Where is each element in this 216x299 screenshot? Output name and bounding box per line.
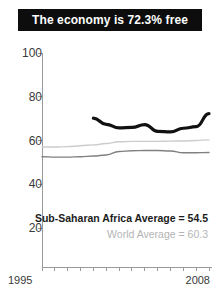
annotation-world-average: World Average = 60.3 xyxy=(107,229,208,240)
annotation-regional-average: Sub-Saharan Africa Average = 54.5 xyxy=(35,213,208,224)
chart-container: The economy is 72.3% free 20406080100 19… xyxy=(0,0,216,299)
x-axis-tick-labels: 1995 2008 xyxy=(0,0,216,299)
x-axis-start-label: 1995 xyxy=(8,275,32,286)
x-axis-end-label: 2008 xyxy=(186,275,210,286)
